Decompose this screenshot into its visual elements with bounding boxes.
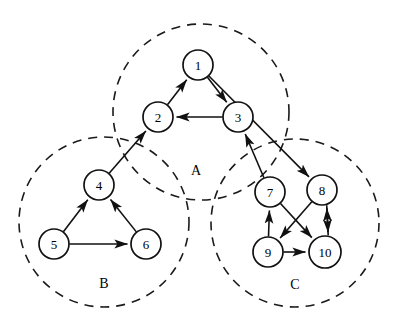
graph-node-1[interactable]: 1 [183, 50, 213, 80]
graph-node-3[interactable]: 3 [223, 102, 253, 132]
node-label-6: 6 [143, 237, 150, 252]
edge-10-to-8 [327, 208, 328, 235]
graph-node-10[interactable]: 10 [309, 236, 341, 268]
graph-node-6[interactable]: 6 [131, 229, 161, 259]
edge-6-to-4 [111, 199, 137, 231]
edge-9-to-7 [269, 210, 270, 236]
graph-figure: 12345678910 ABC [0, 0, 401, 333]
edge-2-to-1 [167, 80, 186, 105]
node-label-1: 1 [195, 58, 202, 73]
edge-4-to-2 [109, 131, 146, 173]
nodes-layer: 12345678910 [39, 50, 341, 268]
graph-canvas: 12345678910 ABC [0, 0, 401, 333]
edge-5-to-4 [63, 200, 87, 232]
node-label-8: 8 [319, 183, 326, 198]
node-label-9: 9 [265, 245, 272, 260]
cluster-label-c: C [290, 277, 299, 292]
cluster-label-a: A [191, 163, 202, 178]
cluster-label-b: B [99, 276, 108, 291]
graph-node-4[interactable]: 4 [84, 170, 114, 200]
edge-7-to-3 [245, 134, 264, 178]
node-label-10: 10 [319, 245, 332, 260]
edge-1-to-8 [209, 76, 309, 177]
graph-node-8[interactable]: 8 [307, 175, 337, 205]
node-label-7: 7 [267, 185, 274, 200]
node-label-2: 2 [155, 110, 162, 125]
node-label-4: 4 [96, 178, 103, 193]
graph-node-5[interactable]: 5 [39, 229, 69, 259]
node-label-5: 5 [51, 237, 58, 252]
graph-node-7[interactable]: 7 [255, 177, 285, 207]
edge-1-to-3 [207, 77, 226, 102]
node-label-3: 3 [235, 110, 242, 125]
graph-node-2[interactable]: 2 [143, 102, 173, 132]
graph-node-9[interactable]: 9 [253, 237, 283, 267]
